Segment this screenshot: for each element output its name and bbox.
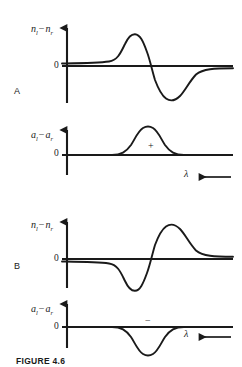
curve-B-ord: [62, 225, 233, 291]
zero-label-a-cd: 0: [54, 148, 59, 158]
y-axis-label-b-cd: al−ar: [31, 303, 53, 316]
plot-B-cd: [62, 304, 233, 355]
figure-container: A B nl−nr al−ar nl−nr al−ar 0 0 0 0 λ λ …: [0, 0, 242, 367]
zero-label-a-ord: 0: [54, 60, 59, 70]
y-axis-label-a-cd-sub-r: r: [50, 135, 53, 142]
zero-label-b-ord: 0: [54, 253, 59, 263]
sign-marker-positive: +: [148, 140, 154, 151]
y-axis-label-a-ord: nl−nr: [31, 23, 53, 36]
y-axis-label-b-ord: nl−nr: [31, 219, 53, 232]
lambda-label-b: λ: [184, 328, 188, 339]
plot-A-ord: [62, 28, 233, 103]
panel-label-b: B: [14, 261, 20, 271]
lambda-label-a: λ: [184, 168, 188, 179]
zero-label-b-cd: 0: [54, 321, 59, 331]
y-axis-label-a-cd: al−ar: [31, 129, 53, 142]
sign-marker-negative: −: [145, 315, 151, 326]
y-axis-label-b-cd-sub-r: r: [50, 309, 53, 316]
y-axis-label-b-ord-sub-r: r: [50, 225, 53, 232]
curve-B-cd: [112, 327, 184, 355]
figure-caption: FIGURE 4.6: [16, 356, 65, 366]
plot-A-cd: [62, 127, 233, 177]
curve-A-ord: [62, 34, 233, 100]
y-axis-label-a-ord-sub-r: r: [50, 29, 53, 36]
plot-B-ord: [62, 222, 233, 291]
panel-label-a: A: [14, 86, 20, 96]
